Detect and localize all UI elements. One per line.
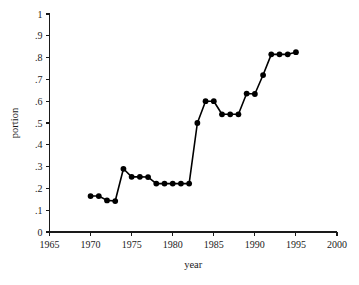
data-point-marker xyxy=(129,174,135,180)
data-point-marker xyxy=(268,51,274,57)
data-point-marker xyxy=(211,98,217,104)
data-point-marker xyxy=(104,197,110,203)
data-point-marker xyxy=(96,193,102,199)
data-point-marker xyxy=(137,174,143,180)
y-tick-label: .5 xyxy=(35,118,43,129)
data-point-marker xyxy=(227,111,233,117)
data-point-marker xyxy=(277,51,283,57)
data-point-marker xyxy=(178,181,184,187)
data-point-marker xyxy=(88,193,94,199)
y-tick-label: .1 xyxy=(35,205,43,216)
y-tick-label: 1 xyxy=(38,9,43,20)
data-point-marker xyxy=(219,111,225,117)
data-point-markers xyxy=(88,49,299,204)
data-point-marker xyxy=(252,91,258,97)
y-tick-label: .3 xyxy=(35,161,43,172)
line-chart: 0.1.2.3.4.5.6.7.8.91 1965197019751980198… xyxy=(0,0,359,285)
x-axis-ticks: 19651970197519801985199019952000 xyxy=(40,232,348,250)
x-tick-label: 1995 xyxy=(286,239,306,250)
y-axis-label: portion xyxy=(9,107,20,138)
y-tick-label: .6 xyxy=(35,96,43,107)
x-tick-label: 1985 xyxy=(204,239,224,250)
x-tick-label: 1965 xyxy=(40,239,60,250)
x-tick-label: 1975 xyxy=(122,239,142,250)
data-point-marker xyxy=(112,198,118,204)
data-point-marker xyxy=(121,166,127,172)
chart-container: 0.1.2.3.4.5.6.7.8.91 1965197019751980198… xyxy=(0,0,359,285)
y-tick-label: .4 xyxy=(35,139,43,150)
x-axis-label: year xyxy=(184,259,203,270)
x-tick-label: 1990 xyxy=(245,239,265,250)
x-tick-label: 1980 xyxy=(163,239,183,250)
y-tick-label: .2 xyxy=(35,183,43,194)
data-point-marker xyxy=(145,174,151,180)
data-point-marker xyxy=(244,91,250,97)
data-point-marker xyxy=(186,181,192,187)
data-point-marker xyxy=(162,181,168,187)
data-point-marker xyxy=(285,51,291,57)
data-point-marker xyxy=(194,120,200,126)
y-tick-label: .8 xyxy=(35,52,43,63)
y-axis-ticks: 0.1.2.3.4.5.6.7.8.91 xyxy=(35,9,50,238)
x-tick-label: 2000 xyxy=(327,239,347,250)
data-point-marker xyxy=(260,72,266,78)
data-point-marker xyxy=(153,181,159,187)
x-tick-label: 1970 xyxy=(81,239,101,250)
data-point-marker xyxy=(293,49,299,55)
y-tick-label: .7 xyxy=(35,74,43,85)
data-point-marker xyxy=(236,111,242,117)
y-tick-label: .9 xyxy=(35,30,43,41)
data-point-marker xyxy=(203,98,209,104)
y-tick-label: 0 xyxy=(38,227,43,238)
data-point-marker xyxy=(170,181,176,187)
